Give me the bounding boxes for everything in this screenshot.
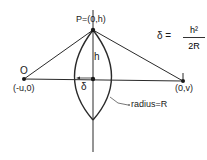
point-i-coords: (0,v) — [175, 84, 193, 93]
center-dot — [91, 77, 95, 81]
sag-label: δ — [81, 82, 87, 92]
point-p-dot — [91, 28, 95, 32]
point-o-label: O — [20, 66, 28, 76]
radius-leader-dot — [128, 104, 130, 106]
height-label: h — [94, 52, 100, 62]
formula-numerator: h² — [183, 25, 205, 38]
lens-left-surface — [75, 30, 94, 120]
formula-fraction: h² 2R — [183, 25, 205, 51]
ray-object-to-p — [24, 30, 93, 79]
radius-label: radius=R — [131, 100, 167, 109]
formula-lhs: δ = — [157, 31, 171, 41]
formula-denominator: 2R — [183, 38, 205, 51]
sag-arrowhead — [76, 77, 80, 80]
point-o-dot — [22, 77, 26, 81]
lens-diagram — [0, 0, 207, 160]
radius-leader — [110, 97, 128, 105]
lens-right-surface — [93, 30, 112, 120]
point-o-coords: (-u,0) — [13, 84, 35, 93]
point-p-label: P=(0,h) — [76, 15, 106, 24]
optical-axis — [24, 79, 183, 81]
